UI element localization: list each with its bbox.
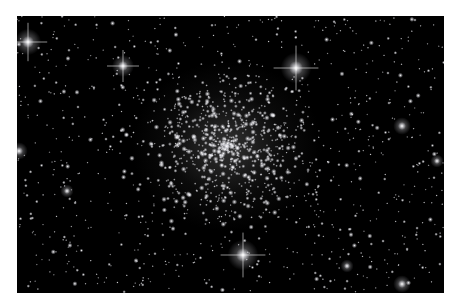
starfield-image <box>17 16 444 293</box>
stars-canvas <box>17 16 444 293</box>
